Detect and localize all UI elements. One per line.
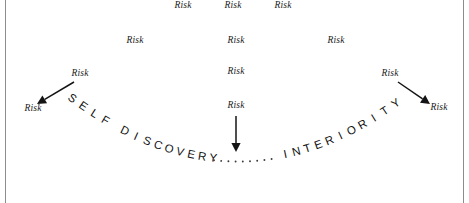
arc-letter-self-discovery: Y bbox=[209, 151, 218, 164]
arc-text-layer: SELFDISCOVERYINTERIORITY bbox=[66, 91, 403, 164]
arc-letter-interiority: E bbox=[313, 137, 325, 151]
arc-separator-dot bbox=[235, 161, 237, 163]
risk-arc-figure: RiskRiskRiskRiskRiskRiskRiskRiskRiskRisk… bbox=[0, 0, 469, 203]
arc-letter-interiority: O bbox=[345, 123, 358, 138]
arc-letter-interiority: R bbox=[356, 117, 369, 132]
arc-separator-dot bbox=[263, 159, 265, 161]
arrow-shaft bbox=[398, 82, 423, 99]
arc-separator-dot bbox=[256, 160, 258, 162]
arc-letter-self-discovery: O bbox=[163, 141, 175, 155]
arc-letter-interiority: I bbox=[336, 129, 344, 141]
arc-separator-dot bbox=[242, 160, 244, 162]
arc-separator-dot bbox=[227, 160, 229, 162]
arc-letter-self-discovery: E bbox=[186, 147, 196, 160]
arc-separator-dot bbox=[220, 160, 222, 162]
arc-letter-interiority: R bbox=[323, 133, 335, 147]
arc-separator-dot bbox=[271, 158, 273, 160]
arc-letter-self-discovery: I bbox=[132, 130, 140, 142]
arc-letter-self-discovery: E bbox=[77, 99, 90, 113]
arc-letter-self-discovery: F bbox=[100, 113, 112, 127]
arc-letter-self-discovery: S bbox=[66, 91, 80, 105]
arc-letter-interiority: Y bbox=[389, 96, 402, 110]
arc-letter-self-discovery: C bbox=[152, 138, 164, 152]
arc-letter-self-discovery: L bbox=[89, 106, 101, 120]
arc-letter-self-discovery: V bbox=[175, 145, 186, 159]
arc-letter-interiority: I bbox=[282, 148, 288, 160]
arc-letter-interiority: T bbox=[302, 141, 312, 155]
arrow-head bbox=[231, 143, 240, 152]
arc-letter-self-discovery: S bbox=[141, 134, 153, 148]
right-arrow bbox=[398, 82, 430, 104]
arrow-head bbox=[420, 95, 430, 104]
arc-letter-self-discovery: D bbox=[119, 123, 132, 137]
arc-letter-interiority: T bbox=[378, 104, 390, 118]
center-arrow bbox=[231, 116, 240, 152]
arc-separator-dot bbox=[249, 160, 251, 162]
arc-letter-self-discovery: R bbox=[197, 150, 207, 163]
diagram-overlay: SELFDISCOVERYINTERIORITY bbox=[0, 0, 469, 203]
arc-separator-dot bbox=[213, 159, 215, 161]
arc-letter-interiority: N bbox=[291, 145, 302, 159]
arc-letter-interiority: I bbox=[369, 112, 378, 124]
